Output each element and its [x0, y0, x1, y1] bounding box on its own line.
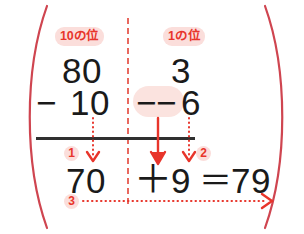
place-value-divider: [127, 18, 129, 204]
plus-operator: ＋: [134, 161, 172, 197]
minus-operator-tens: −: [36, 85, 56, 121]
equals-operator: ＝: [199, 163, 232, 199]
result-tens: 70: [66, 163, 106, 199]
subtrahend-tens: 10: [70, 85, 110, 121]
final-total: 79: [231, 163, 271, 199]
result-ones: 9: [171, 163, 191, 199]
step-badge-2: 2: [196, 146, 211, 161]
subtrahend-ones: 6: [181, 85, 201, 121]
subtraction-rule: [36, 137, 195, 140]
worksheet-figure: 10の位 1の位 80 3 − 10 − − 6 1 2: [0, 0, 304, 234]
step-badge-1: 1: [64, 146, 79, 161]
minus-operator-ones-b: −: [156, 85, 176, 121]
ones-place-label: 1の位: [163, 27, 205, 46]
minus-operator-ones-a: −: [136, 85, 156, 121]
tens-place-label: 10の位: [55, 27, 104, 46]
